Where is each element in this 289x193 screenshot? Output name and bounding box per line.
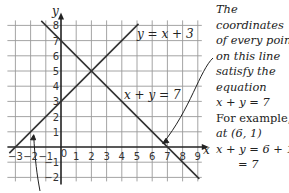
line-label-x-plus-y-equals-7: x + y = 7 <box>124 88 181 102</box>
x-tick-label: 1 <box>73 151 79 162</box>
note-equation: = 7 <box>216 157 289 173</box>
x-tick-label: 0 <box>61 148 67 159</box>
x-tick-label: 4 <box>119 151 125 162</box>
bottom-pointer-arrow <box>34 135 40 191</box>
x-tick-label: 3 <box>103 151 109 162</box>
note-equation: x + y = 6 + 1 <box>216 142 289 158</box>
x-tick-label: 7 <box>164 151 170 162</box>
arrowhead-icon <box>163 138 169 143</box>
note-line: satisfy the <box>216 64 289 80</box>
x-tick-label: 2 <box>88 151 94 162</box>
y-axis-arrow-icon <box>58 12 64 19</box>
arrowhead-icon <box>31 135 36 140</box>
x-tick-label: 9 <box>195 151 201 162</box>
note-line: For example, <box>216 111 289 127</box>
y-tick-label: −1 <box>44 157 59 168</box>
y-tick-label: 2 <box>53 112 59 123</box>
note-equation: x + y = 7 <box>216 95 289 111</box>
note-line: at (6, 1) <box>216 126 289 142</box>
note-line: of every point <box>216 33 289 49</box>
y-tick-label: 1 <box>53 127 59 138</box>
y-tick-label: 5 <box>53 66 59 77</box>
x-tick-label: 6 <box>149 151 155 162</box>
note-line: The <box>216 2 289 18</box>
x-axis-label: x <box>203 143 210 157</box>
line-y-equals-x-plus-3 <box>9 24 138 153</box>
y-tick-label: −2 <box>44 172 59 183</box>
line-label-y-equals-x-plus-3: y = x + 3 <box>136 27 194 41</box>
note-line: equation <box>216 80 289 96</box>
note-line: on this line <box>216 49 289 65</box>
explanation-note: The coordinates of every point on this l… <box>216 2 289 173</box>
y-axis-label: y <box>51 4 59 18</box>
y-tick-label: 6 <box>53 51 59 62</box>
x-tick-label: 5 <box>134 151 140 162</box>
y-tick-label: 4 <box>53 81 59 92</box>
note-line: coordinates <box>216 18 289 34</box>
y-tick-label: 8 <box>53 20 59 31</box>
